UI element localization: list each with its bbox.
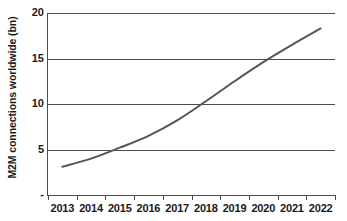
y-tick-label-15: 15 (20, 53, 44, 64)
x-tick-5 (192, 195, 193, 200)
x-tick-1 (77, 195, 78, 200)
y-axis-title: M2M connections worldwide (bn) (3, 0, 21, 195)
series-line-m2m-connections (48, 13, 335, 195)
y-tick-label-10: 10 (20, 98, 44, 109)
x-tick-label-2015: 2015 (105, 201, 134, 215)
plot-area (48, 13, 335, 195)
y-tick-label-20: 20 (20, 7, 44, 18)
x-tick-2 (105, 195, 106, 200)
x-tick-4 (163, 195, 164, 200)
x-tick-label-2018: 2018 (192, 201, 221, 215)
x-tick-label-2019: 2019 (220, 201, 249, 215)
x-tick-10 (335, 195, 336, 200)
y-tick-label-5: 5 (20, 144, 44, 155)
x-tick-9 (306, 195, 307, 200)
x-tick-label-2022: 2022 (306, 201, 335, 215)
x-tick-8 (278, 195, 279, 200)
x-tick-label-2016: 2016 (134, 201, 163, 215)
x-tick-label-2021: 2021 (278, 201, 307, 215)
y-tick-label-0: - (20, 189, 44, 200)
series-path (62, 28, 320, 166)
x-tick-label-2020: 2020 (249, 201, 278, 215)
chart-container: M2M connections worldwide (bn) -5101520 … (0, 0, 347, 221)
x-tick-0 (48, 195, 49, 200)
y-axis-tick-labels: -5101520 (20, 0, 44, 221)
x-axis-tick-labels: 2013201420152016201720182019202020212022 (48, 201, 335, 217)
x-tick-6 (220, 195, 221, 200)
x-tick-label-2014: 2014 (77, 201, 106, 215)
x-tick-7 (249, 195, 250, 200)
x-tick-3 (134, 195, 135, 200)
x-tick-label-2017: 2017 (163, 201, 192, 215)
x-tick-label-2013: 2013 (48, 201, 77, 215)
